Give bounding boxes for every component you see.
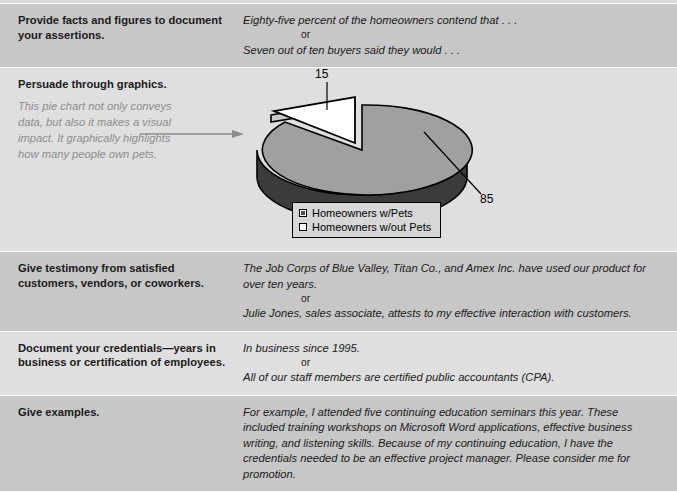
chart-legend: Homeowners w/Pets Homeowners w/out Pets	[292, 202, 441, 238]
row-label: Give examples.	[0, 396, 243, 491]
example-line: Julie Jones, sales associate, attests to…	[243, 306, 655, 321]
table-row: Provide facts and figures to document yo…	[0, 4, 677, 68]
row-label: Persuade through graphics.	[18, 77, 229, 92]
legend-swatch-nopets-icon	[299, 223, 307, 231]
top-rule	[0, 0, 677, 3]
legend-item: Homeowners w/out Pets	[299, 220, 431, 234]
row-examples: For example, I attended five continuing …	[243, 396, 677, 491]
example-line: Seven out of ten buyers said they would …	[243, 43, 655, 58]
table-row: Give testimony from satisfied customers,…	[0, 252, 677, 332]
pie-chart: 15 85 Homeowners w/Pets Homeowners w/out…	[249, 72, 549, 242]
example-line: For example, I attended five continuing …	[243, 405, 655, 482]
row-label-graphics: Persuade through graphics. This pie char…	[0, 68, 243, 251]
legend-label: Homeowners w/out Pets	[312, 220, 431, 234]
example-line: In business since 1995.	[243, 341, 655, 356]
example-line: All of our staff members are certified p…	[243, 370, 655, 385]
row-examples: Eighty-five percent of the homeowners co…	[243, 4, 677, 67]
legend-swatch-pets-icon	[299, 209, 307, 217]
row-label: Provide facts and figures to document yo…	[0, 4, 243, 67]
or-connector: or	[243, 292, 655, 306]
legend-label: Homeowners w/Pets	[312, 206, 413, 220]
row-label: Give testimony from satisfied customers,…	[0, 252, 243, 331]
techniques-table: Provide facts and figures to document yo…	[0, 4, 677, 492]
table-row: Document your credentials—years in busin…	[0, 332, 677, 396]
table-row-graphics: Persuade through graphics. This pie char…	[0, 68, 677, 252]
row-examples: In business since 1995. or All of our st…	[243, 332, 677, 395]
chart-cell: 15 85 Homeowners w/Pets Homeowners w/out…	[243, 68, 677, 251]
document-page: Provide facts and figures to document yo…	[0, 0, 677, 492]
or-connector: or	[243, 28, 655, 42]
or-connector: or	[243, 356, 655, 370]
row-label: Document your credentials—years in busin…	[0, 332, 243, 395]
pie-label-15: 15	[315, 66, 328, 83]
table-row: Give examples. For example, I attended f…	[0, 396, 677, 492]
example-line: Eighty-five percent of the homeowners co…	[243, 13, 655, 28]
legend-item: Homeowners w/Pets	[299, 206, 431, 220]
pie-label-85: 85	[480, 191, 493, 208]
row-examples: The Job Corps of Blue Valley, Titan Co.,…	[243, 252, 677, 331]
pointer-arrow-icon	[140, 129, 244, 139]
example-line: The Job Corps of Blue Valley, Titan Co.,…	[243, 261, 655, 292]
